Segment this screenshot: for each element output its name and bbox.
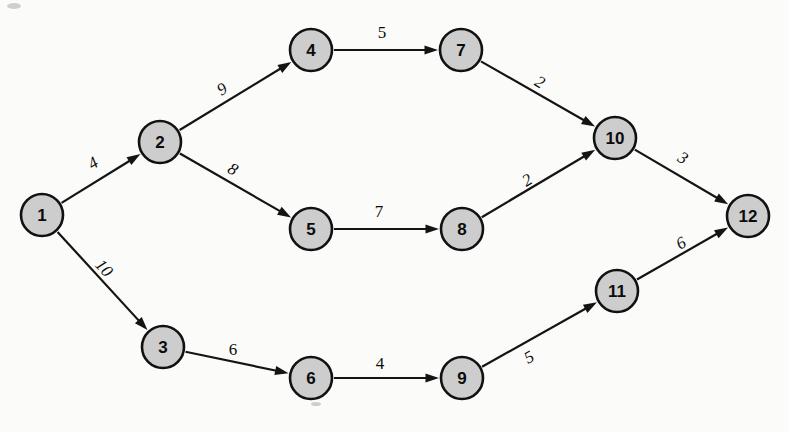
edge-line-10-to-12 [635,150,720,200]
edge-weight-10-to-12: 3 [674,147,692,168]
graph-node-1[interactable]: 1 [21,194,63,236]
graph-svg: 41098657422536 123456789101112 [0,0,789,432]
node-circle-6 [290,357,332,399]
graph-node-10[interactable]: 10 [594,117,636,159]
node-circle-3 [142,326,184,368]
arrow-head-3-to-6 [274,366,288,375]
edge-weight-7-to-10: 2 [532,72,549,93]
edge-weight-5-to-8: 7 [375,202,384,221]
node-circle-2 [139,121,181,163]
node-circle-9 [441,357,483,399]
arrow-head-1-to-2 [127,154,141,165]
graph-node-6[interactable]: 6 [290,357,332,399]
edge-weight-2-to-4: 9 [213,78,231,99]
graph-node-3[interactable]: 3 [142,326,184,368]
edge-weight-1-to-2: 4 [84,152,102,173]
node-circle-5 [290,208,332,250]
edge-weights-layer: 41098657422536 [84,23,691,373]
graph-node-7[interactable]: 7 [440,29,482,71]
graph-node-4[interactable]: 4 [290,29,332,71]
arrow-head-6-to-9 [426,373,440,382]
arrow-head-4-to-7 [425,45,439,54]
edge-weight-9-to-11: 5 [521,347,538,368]
scan-speck [311,402,321,406]
edge-line-9-to-11 [482,307,588,367]
node-circle-10 [594,117,636,159]
graph-node-5[interactable]: 5 [290,208,332,250]
arrow-head-10-to-12 [714,194,728,205]
graph-node-8[interactable]: 8 [441,208,483,250]
arrow-head-5-to-8 [426,224,440,233]
graph-node-2[interactable]: 2 [139,121,181,163]
arrow-head-2-to-5 [277,207,291,218]
node-circle-1 [21,194,63,236]
arrow-head-11-to-12 [714,227,728,238]
graph-node-12[interactable]: 12 [727,195,769,237]
edge-line-2-to-4 [180,67,283,130]
edge-weight-1-to-3: 10 [91,255,117,281]
node-circle-4 [290,29,332,71]
graph-diagram-canvas: 41098657422536 123456789101112 [0,0,789,432]
edge-weight-6-to-9: 4 [376,354,385,373]
graph-node-11[interactable]: 11 [596,270,638,312]
edge-weight-11-to-12: 6 [673,232,690,253]
node-circle-8 [441,208,483,250]
edge-weight-8-to-10: 2 [518,169,535,190]
node-circle-12 [727,195,769,237]
arrow-head-8-to-10 [581,150,595,161]
edge-weight-2-to-5: 8 [225,159,242,180]
graph-node-9[interactable]: 9 [441,357,483,399]
node-circle-7 [440,29,482,71]
edge-weight-3-to-6: 6 [229,340,238,359]
arrow-head-7-to-10 [581,116,595,127]
arrow-head-2-to-4 [277,62,291,73]
scan-speck [7,3,21,9]
edge-line-1-to-3 [58,232,141,323]
edge-line-7-to-10 [481,61,587,121]
nodes-layer: 123456789101112 [21,29,769,399]
node-circle-11 [596,270,638,312]
arrow-head-9-to-11 [583,302,597,313]
edge-weight-4-to-7: 5 [378,23,387,42]
